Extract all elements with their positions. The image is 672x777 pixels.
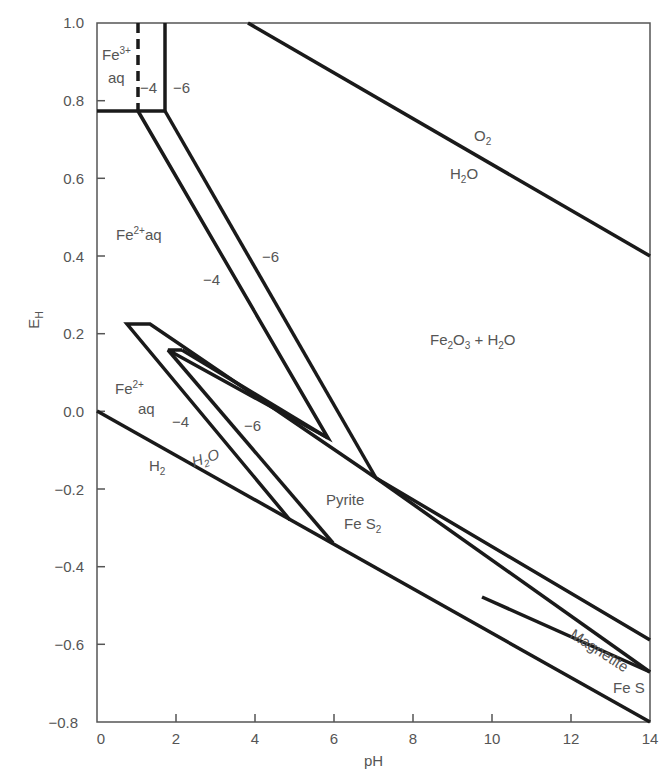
- label-pyrite: Pyrite: [326, 492, 364, 507]
- y-tick-label: 0.4: [0, 248, 84, 265]
- label-text: O: [474, 127, 486, 144]
- label-fe2-aq-lower: Fe2+: [115, 380, 144, 396]
- x-tick-label: 10: [477, 730, 507, 747]
- label-o2: O2: [474, 128, 491, 147]
- x-tick-label: 2: [161, 730, 191, 747]
- y-tick-label: −0.2: [0, 481, 84, 498]
- label-neg6-mid: −6: [262, 249, 279, 264]
- x-tick-label: 14: [635, 730, 665, 747]
- o2-h2o-line: [248, 23, 650, 256]
- boundary-lines: [97, 23, 650, 722]
- label-neg4-mid: −4: [203, 272, 220, 287]
- label-sup: 3+: [120, 45, 131, 56]
- label-sup: 2+: [134, 225, 145, 236]
- label-text: O: [466, 165, 478, 182]
- label-text: O: [504, 331, 516, 348]
- x-axis-title: pH: [364, 752, 383, 769]
- label-sup: 2+: [133, 379, 144, 390]
- label-fe3-aq-suffix: aq: [108, 70, 125, 85]
- x-tick-label: 4: [240, 730, 270, 747]
- x-tick-label: 8: [398, 730, 428, 747]
- label-text: + H: [470, 331, 498, 348]
- label-text: Fe: [102, 46, 120, 63]
- eh-ph-diagram: [0, 0, 672, 777]
- y-tick-label: −0.4: [0, 558, 84, 575]
- y-axis-title: EH: [25, 311, 45, 328]
- label-text: Fe: [116, 226, 134, 243]
- y-tick-label: 1.0: [0, 14, 84, 31]
- y-axis-title-main: E: [25, 319, 42, 329]
- fe2-fe2o3-neg4-line: [138, 111, 328, 438]
- label-text: H: [450, 165, 461, 182]
- label-text: Fe: [430, 331, 448, 348]
- y-tick-label: −0.6: [0, 636, 84, 653]
- x-tick-label: 0: [86, 730, 116, 747]
- fe2-fe2o3-neg6-line: [165, 111, 376, 478]
- label-text: H: [149, 457, 160, 474]
- label-sub: 2: [486, 136, 492, 147]
- label-text: Fe: [115, 380, 133, 397]
- label-text: aq: [145, 226, 162, 243]
- label-fes: Fe S: [613, 680, 645, 695]
- y-axis-title-sub: H: [34, 311, 45, 318]
- x-axis-ticks: [176, 714, 571, 722]
- magnetite-lower-line: [376, 478, 650, 672]
- y-tick-label: 0.0: [0, 403, 84, 420]
- label-text: Fe S: [344, 515, 376, 532]
- label-fe2o3-h2o: Fe2O3 + H2O: [430, 332, 515, 351]
- label-sub: 2: [160, 466, 166, 477]
- label-neg4-low: −4: [172, 414, 189, 429]
- plot-frame: [97, 23, 650, 722]
- pyrite-neg6-left-line: [168, 350, 333, 543]
- label-neg6-top: −6: [173, 80, 190, 95]
- h2o-h2-line: [97, 411, 650, 722]
- label-fe3-aq: Fe3+: [102, 46, 131, 62]
- x-tick-label: 12: [556, 730, 586, 747]
- label-fes2: Fe S2: [344, 516, 381, 535]
- x-tick-label: 6: [319, 730, 349, 747]
- y-tick-label: 0.8: [0, 92, 84, 109]
- y-tick-label: 0.6: [0, 170, 84, 187]
- label-fe2-aq-lower-suffix: aq: [138, 401, 155, 416]
- y-axis-ticks: [97, 101, 105, 645]
- label-h2: H2: [149, 458, 165, 477]
- label-neg4-top: −4: [140, 80, 157, 95]
- label-h2o-top: H2O: [450, 166, 478, 185]
- label-sub: 2: [376, 524, 382, 535]
- y-tick-label: −0.8: [0, 714, 78, 731]
- label-fe2-aq-upper: Fe2+aq: [116, 226, 162, 242]
- label-text: O: [453, 331, 465, 348]
- label-neg6-low: −6: [244, 418, 261, 433]
